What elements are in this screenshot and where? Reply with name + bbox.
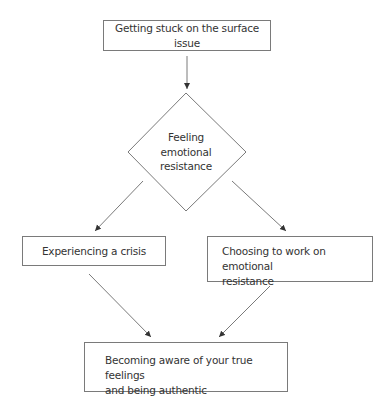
arrow-decision-to-left [95,181,143,231]
end-node: Becoming aware of your true feelings and… [84,342,288,392]
decision-node-label: Feeling emotional resistance [136,130,236,174]
arrow-left-to-end [89,274,151,337]
start-node-label: Getting stuck on the surface issue [104,21,270,51]
decision-label-line-2: emotional [136,145,236,160]
end-node-label-line-1: Becoming aware of your true feelings [105,353,275,383]
arrow-right-to-end [219,286,270,337]
right-branch-node: Choosing to work on emotional resistance [207,236,373,282]
right-branch-label-line-2: resistance [222,274,360,289]
left-branch-label: Experiencing a crisis [42,244,146,259]
left-branch-node: Experiencing a crisis [22,236,166,266]
end-node-label-line-2: and being authentic [105,383,275,398]
arrow-decision-to-right [232,181,286,231]
start-node: Getting stuck on the surface issue [103,20,271,51]
decision-label-line-3: resistance [136,159,236,174]
right-branch-label-line-1: Choosing to work on emotional [222,244,360,274]
decision-label-line-1: Feeling [136,130,236,145]
